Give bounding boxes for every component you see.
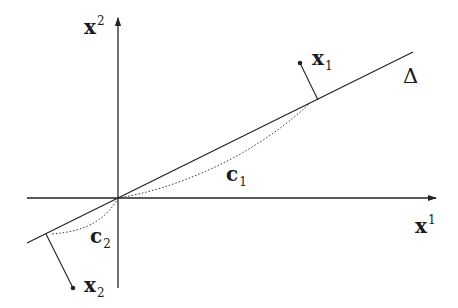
c2-label: c2 xyxy=(90,226,111,246)
delta-line xyxy=(27,52,413,243)
delta-label: Δ xyxy=(403,66,418,87)
x-axis-label: x1 xyxy=(415,216,436,236)
diagram-canvas xyxy=(0,0,458,308)
c1-label: c1 xyxy=(226,164,247,184)
x2-label: x2 xyxy=(84,275,105,295)
x2-projection xyxy=(46,234,73,288)
x1-point xyxy=(298,61,303,66)
x2-point xyxy=(71,286,76,291)
x1-label: x1 xyxy=(312,48,333,68)
y-axis-label: x2 xyxy=(84,17,105,37)
